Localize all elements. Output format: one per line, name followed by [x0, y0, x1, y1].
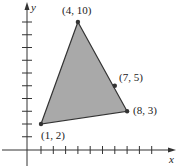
point-label-8-3: (8, 3) — [133, 104, 157, 117]
shaded-triangle-region — [41, 22, 127, 124]
vertex-point — [76, 20, 80, 24]
x-axis-arrow-icon — [168, 148, 176, 153]
y-axis-label: y — [30, 1, 36, 13]
y-axis-arrow-icon — [25, 2, 30, 10]
coordinate-plot: y x (4, 10) (7, 5) (8, 3) (1, 2) — [0, 0, 181, 168]
vertex-point — [113, 84, 117, 88]
point-label-1-2: (1, 2) — [41, 129, 65, 142]
vertex-point — [39, 122, 43, 126]
point-label-4-10: (4, 10) — [62, 4, 92, 17]
x-axis-label: x — [168, 153, 174, 165]
point-label-7-5: (7, 5) — [119, 71, 143, 84]
vertex-point — [125, 109, 129, 113]
